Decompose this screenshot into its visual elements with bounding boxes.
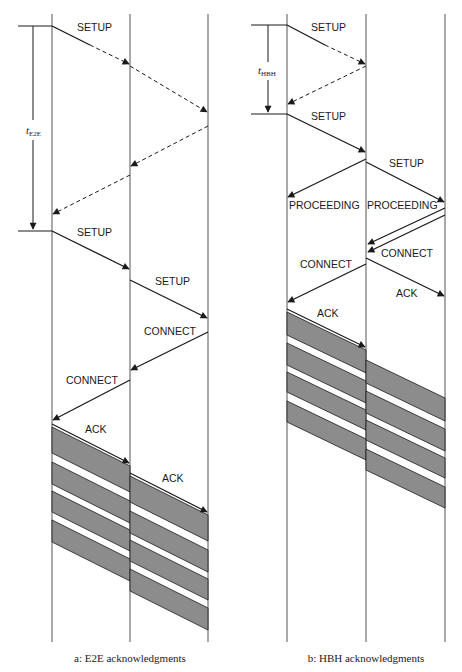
data-bands-hop2	[130, 476, 208, 630]
message-connect-2: CONNECT	[53, 374, 130, 420]
data-bands-hop2	[366, 360, 445, 508]
message-connect-1: CONNECT	[368, 215, 445, 259]
svg-text:ACK: ACK	[317, 307, 339, 319]
svg-text:ACK: ACK	[396, 287, 418, 299]
message-proceeding-2: PROCEEDING	[367, 199, 445, 244]
message-connect-1: CONNECT	[131, 325, 208, 370]
message-setup-2: SETUP	[52, 226, 129, 269]
svg-text:CONNECT: CONNECT	[381, 247, 434, 259]
data-bands-hop1	[52, 427, 130, 581]
svg-text:SETUP: SETUP	[311, 110, 346, 122]
panel-hbh: tHBH SETUP SETUP PROCEEDING SETUP PROCEE…	[251, 14, 445, 664]
message-dashed-4	[53, 175, 130, 214]
svg-text:SETUP: SETUP	[311, 21, 346, 33]
svg-text:SETUP: SETUP	[155, 275, 190, 287]
message-setup-3: SETUP	[130, 275, 207, 318]
svg-text:SETUP: SETUP	[77, 226, 112, 238]
message-dashed-3	[131, 126, 208, 166]
panel-e2e: tE2E SETUP SETUP SETUP CONNECT CONNECT	[18, 14, 208, 664]
svg-text:PROCEEDING: PROCEEDING	[289, 199, 360, 211]
timer-hbh: tHBH	[251, 25, 287, 114]
message-ack-hop2: ACK	[366, 258, 444, 299]
timer-label-e2e: tE2E	[26, 124, 41, 138]
message-setup-3: SETUP	[366, 157, 444, 202]
message-setup-2: SETUP	[287, 110, 365, 152]
svg-text:SETUP: SETUP	[389, 157, 424, 169]
svg-text:PROCEEDING: PROCEEDING	[367, 199, 438, 211]
message-proceeding-1: PROCEEDING	[288, 159, 366, 211]
svg-text:ACK: ACK	[85, 423, 107, 435]
caption-hbh: b: HBH acknowledgments	[308, 652, 425, 664]
message-sequence-diagram: tE2E SETUP SETUP SETUP CONNECT CONNECT	[0, 0, 462, 672]
message-connect-2: CONNECT	[288, 258, 366, 302]
svg-text:CONNECT: CONNECT	[300, 258, 353, 270]
message-setup-1: SETUP	[52, 21, 129, 64]
message-setup-1: SETUP	[287, 21, 365, 64]
svg-text:SETUP: SETUP	[77, 21, 112, 33]
message-dashed-2	[130, 66, 207, 112]
data-bands-hop1	[287, 312, 366, 460]
timer-label-hbh: tHBH	[258, 64, 276, 78]
caption-e2e: a: E2E acknowledgments	[74, 652, 186, 664]
timer-e2e: tE2E	[18, 26, 52, 231]
svg-text:CONNECT: CONNECT	[66, 374, 119, 386]
svg-text:CONNECT: CONNECT	[144, 325, 197, 337]
message-dashed-2	[288, 66, 366, 104]
svg-text:ACK: ACK	[162, 472, 184, 484]
